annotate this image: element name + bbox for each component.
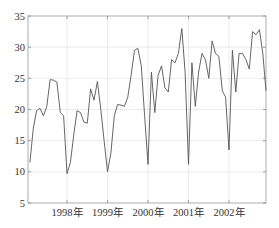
y-tick-label: 5	[20, 198, 25, 209]
y-tick-label: 10	[15, 166, 26, 177]
x-tick-label: 2002年	[214, 206, 245, 218]
x-tick-label: 1998年	[52, 206, 83, 218]
y-tick-label: 20	[15, 104, 26, 115]
line-chart: 5101520253035 1998年1999年2000年2001年2002年	[0, 0, 279, 228]
y-tick-label: 15	[15, 135, 26, 146]
y-tick-label: 30	[15, 42, 26, 53]
x-tick-label: 1999年	[92, 206, 123, 218]
y-tick-label: 25	[15, 73, 26, 84]
x-tick-label: 2000年	[133, 206, 164, 218]
x-tick-label: 2001年	[173, 206, 204, 218]
y-tick-label: 35	[15, 11, 26, 22]
